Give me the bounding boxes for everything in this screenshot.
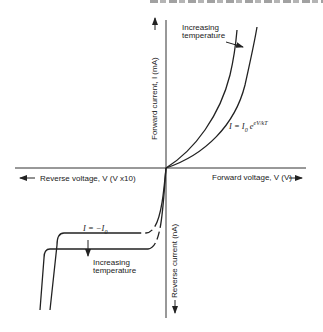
- forward-curve-low-temp: [166, 30, 237, 168]
- reverse-equation-main: I = −I: [83, 223, 104, 233]
- iv-characteristic-diagram: [0, 0, 323, 332]
- forward-equation: I = I0 eeV/kT: [229, 120, 268, 133]
- forward-equation-main: I = I: [229, 121, 245, 131]
- reverse-equation: I = −I0: [83, 223, 107, 235]
- forward-voltage-label: Forward voltage, V (V): [212, 173, 292, 182]
- reverse-temperature-label-line2: temperature: [93, 266, 136, 275]
- reverse-current-label: Reverse current (nA): [170, 224, 179, 298]
- reverse-curve-low-temp: [50, 168, 166, 310]
- reverse-voltage-label: Reverse voltage, V (V x10): [40, 174, 136, 183]
- reverse-curve-high-temp: [40, 168, 166, 310]
- forward-temperature-arrow: [226, 42, 243, 47]
- forward-temperature-label-line2: temperature: [182, 31, 225, 40]
- forward-curve-high-temp: [166, 27, 257, 168]
- forward-equation-exp: eV/kT: [254, 120, 268, 126]
- forward-current-label: Forward current, I (mA): [150, 57, 159, 140]
- reverse-equation-sub: 0: [104, 229, 107, 235]
